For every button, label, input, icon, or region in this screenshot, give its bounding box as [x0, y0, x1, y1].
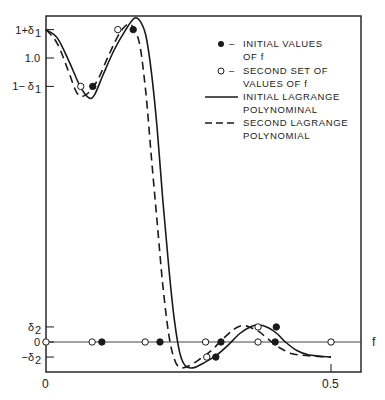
legend-item-second-set: – SECOND SET OF VALUES OF f — [218, 65, 328, 89]
legend-item-initial-values: – INITIAL VALUES OF f — [218, 38, 323, 62]
open-circle-icon — [43, 339, 49, 345]
filled-circle-icon — [130, 26, 136, 32]
legend-label-line2: POLYNOMIAL — [243, 130, 310, 141]
filled-circle-icon — [157, 339, 163, 345]
y-tick-label-subscript: 2 — [35, 324, 41, 336]
y-tick-label: −δ — [21, 351, 34, 363]
second-set-values-markers — [43, 26, 334, 360]
legend-label-line1: SECOND LAGRANGE — [243, 117, 348, 128]
open-circle-icon — [255, 339, 261, 345]
filled-circle-icon — [272, 339, 278, 345]
open-circle-icon — [115, 26, 121, 32]
y-tick-label-subscript: 1 — [35, 83, 41, 95]
y-tick-label: 0 — [34, 336, 40, 348]
y-tick-label: δ — [28, 321, 34, 333]
y-tick-label-subscript: 1 — [35, 27, 41, 39]
filled-circle-icon — [90, 83, 96, 89]
lagrange-filter-chart: 1+δ11.01− δ1δ20−δ2 0 0.5 f – INITIAL VAL… — [0, 0, 385, 400]
open-circle-icon — [204, 354, 210, 360]
legend: – INITIAL VALUES OF f – SECOND SET OF VA… — [205, 38, 348, 141]
legend-label-line2: OF f — [243, 51, 264, 62]
open-circle-icon — [202, 339, 208, 345]
open-circle-icon — [255, 324, 261, 330]
legend-label-line1: SECOND SET OF — [243, 65, 328, 76]
legend-label-line2: POLYNOMINAL — [243, 104, 318, 115]
open-circle-icon — [218, 68, 224, 74]
y-axis-ticks: 1+δ11.01− δ1δ20−δ2 — [12, 24, 54, 366]
filled-circle-icon — [99, 339, 105, 345]
open-circle-icon — [328, 339, 334, 345]
x-tick-label-half: 0.5 — [322, 377, 339, 391]
y-tick-label: 1.0 — [25, 52, 40, 64]
legend-dash: – — [229, 38, 235, 49]
legend-dash: – — [229, 65, 235, 76]
open-circle-icon — [78, 83, 84, 89]
filled-circle-icon — [273, 324, 279, 330]
legend-label-line2: VALUES OF f — [243, 78, 308, 89]
legend-item-initial-polynomial: INITIAL LAGRANGE POLYNOMINAL — [205, 91, 340, 115]
legend-label-line1: INITIAL LAGRANGE — [243, 91, 340, 102]
filled-circle-icon — [213, 354, 219, 360]
legend-item-second-polynomial: SECOND LAGRANGE POLYNOMIAL — [205, 117, 348, 141]
filled-circle-icon — [218, 339, 224, 345]
open-circle-icon — [89, 339, 95, 345]
y-tick-label: 1− δ — [12, 80, 34, 92]
y-tick-label: 1+δ — [15, 24, 34, 36]
y-tick-label-subscript: 2 — [35, 354, 41, 366]
legend-label-line1: INITIAL VALUES — [243, 38, 323, 49]
open-circle-icon — [142, 339, 148, 345]
x-tick-label-zero: 0 — [42, 377, 49, 391]
initial-values-markers — [43, 26, 334, 360]
x-axis-label: f — [372, 335, 376, 349]
filled-circle-icon — [218, 41, 224, 47]
